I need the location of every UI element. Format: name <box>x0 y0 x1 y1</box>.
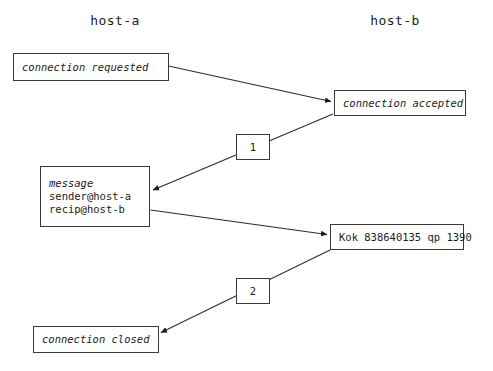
column-header-host-a: host-a <box>60 13 170 28</box>
connector-message-to-kok <box>151 210 328 235</box>
node-message-envelope-line-1: message <box>49 177 141 190</box>
node-message-envelope-line-3: recip@host-b <box>49 203 141 216</box>
node-kok-response: Kok 838640135 qp 1390 <box>330 224 464 250</box>
node-message-envelope-line-2: sender@host-a <box>49 190 141 203</box>
node-connection-requested: connection requested <box>13 53 169 81</box>
node-connection-accepted-line-1: connection accepted <box>343 97 457 110</box>
node-connection-requested-line-1: connection requested <box>22 61 160 74</box>
node-connection-accepted: connection accepted <box>334 90 466 116</box>
node-kok-response-line-1: Kok 838640135 qp 1390 <box>339 231 455 244</box>
node-connection-closed: connection closed <box>33 326 159 353</box>
connector-requested-to-accepted <box>169 66 332 102</box>
column-header-host-b: host-b <box>340 13 450 28</box>
step-tag-2: 2 <box>236 278 270 304</box>
node-connection-closed-line-1: connection closed <box>42 333 150 346</box>
diagram-canvas: host-a host-b connection requested conne… <box>0 0 493 371</box>
node-message-envelope: message sender@host-a recip@host-b <box>40 166 150 227</box>
step-tag-1: 1 <box>236 134 270 160</box>
